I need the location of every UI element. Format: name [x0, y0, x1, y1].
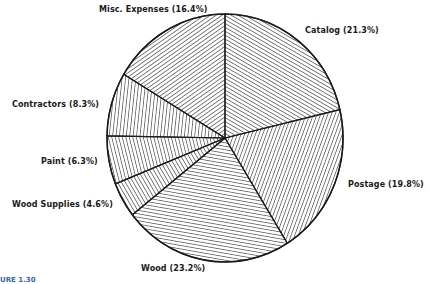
pie-chart	[0, 0, 430, 284]
label-misc-expenses: Misc. Expenses (16.4%)	[99, 5, 208, 14]
label-contractors: Contractors (8.3%)	[12, 100, 99, 109]
label-catalog: Catalog (21.3%)	[305, 26, 379, 35]
label-wood: Wood (23.2%)	[141, 264, 205, 273]
label-postage: Postage (19.8%)	[348, 180, 424, 189]
label-wood-supplies: Wood Supplies (4.6%)	[12, 200, 113, 209]
figure-caption: URE 1.30	[0, 276, 36, 284]
label-paint: Paint (6.3%)	[41, 157, 98, 166]
